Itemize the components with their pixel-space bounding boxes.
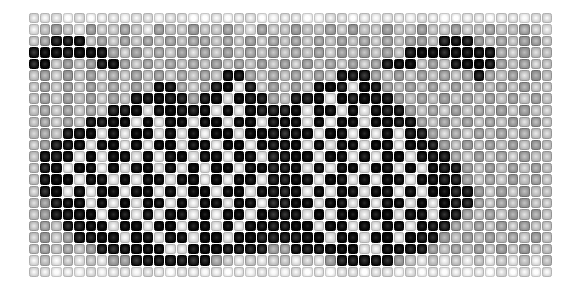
mosaic-tile xyxy=(462,198,472,209)
mosaic-tile xyxy=(51,47,61,58)
mosaic-tile xyxy=(120,47,130,58)
mosaic-cell xyxy=(245,266,256,278)
mosaic-cell xyxy=(108,81,119,93)
mosaic-cell xyxy=(302,209,313,221)
mosaic-cell xyxy=(416,243,427,255)
mosaic-tile xyxy=(120,209,130,220)
mosaic-cell xyxy=(325,209,336,221)
mosaic-cell xyxy=(233,139,244,151)
mosaic-cell xyxy=(233,255,244,267)
mosaic-cell xyxy=(245,151,256,163)
mosaic-tile xyxy=(234,82,244,93)
mosaic-cell xyxy=(142,116,153,128)
mosaic-cell xyxy=(348,58,359,70)
mosaic-tile xyxy=(474,70,484,81)
mosaic-cell xyxy=(62,58,73,70)
mosaic-cell xyxy=(370,116,381,128)
mosaic-cell xyxy=(530,185,541,197)
mosaic-tile xyxy=(519,117,529,128)
mosaic-cell xyxy=(256,139,267,151)
mosaic-cell xyxy=(131,220,142,232)
mosaic-cell xyxy=(279,174,290,186)
mosaic-cell xyxy=(302,35,313,47)
mosaic-cell xyxy=(450,174,461,186)
mosaic-tile xyxy=(120,82,130,93)
mosaic-tile xyxy=(531,244,541,255)
mosaic-tile xyxy=(108,174,118,185)
mosaic-tile xyxy=(348,70,358,81)
mosaic-tile xyxy=(154,82,164,93)
mosaic-cell xyxy=(393,35,404,47)
mosaic-tile xyxy=(86,221,96,232)
mosaic-cell xyxy=(313,70,324,82)
mosaic-cell xyxy=(302,255,313,267)
mosaic-tile xyxy=(348,82,358,93)
mosaic-tile xyxy=(496,13,506,24)
mosaic-tile xyxy=(268,117,278,128)
mosaic-cell xyxy=(405,81,416,93)
mosaic-cell xyxy=(450,47,461,59)
mosaic-cell xyxy=(51,162,62,174)
mosaic-tile xyxy=(325,36,335,47)
mosaic-tile xyxy=(51,128,61,139)
mosaic-tile xyxy=(245,82,255,93)
mosaic-tile xyxy=(371,59,381,70)
mosaic-tile xyxy=(474,82,484,93)
mosaic-cell xyxy=(439,220,450,232)
mosaic-cell xyxy=(485,81,496,93)
mosaic-cell xyxy=(51,81,62,93)
mosaic-cell xyxy=(188,266,199,278)
mosaic-tile xyxy=(348,221,358,232)
mosaic-cell xyxy=(496,255,507,267)
mosaic-tile xyxy=(462,163,472,174)
mosaic-cell xyxy=(142,81,153,93)
mosaic-cell xyxy=(62,139,73,151)
mosaic-tile xyxy=(314,140,324,151)
mosaic-tile xyxy=(371,47,381,58)
mosaic-cell xyxy=(325,70,336,82)
mosaic-tile xyxy=(211,13,221,24)
mosaic-cell xyxy=(165,93,176,105)
mosaic-cell xyxy=(62,93,73,105)
mosaic-tile xyxy=(462,47,472,58)
mosaic-tile xyxy=(302,13,312,24)
mosaic-tile xyxy=(51,70,61,81)
mosaic-cell xyxy=(222,255,233,267)
mosaic-cell xyxy=(211,116,222,128)
mosaic-cell xyxy=(507,162,518,174)
mosaic-tile xyxy=(531,59,541,70)
mosaic-cell xyxy=(154,174,165,186)
mosaic-tile xyxy=(314,47,324,58)
mosaic-tile xyxy=(314,24,324,35)
mosaic-cell xyxy=(165,255,176,267)
mosaic-tile xyxy=(542,70,552,81)
mosaic-cell xyxy=(348,162,359,174)
mosaic-tile xyxy=(485,13,495,24)
mosaic-tile xyxy=(280,82,290,93)
mosaic-cell xyxy=(359,185,370,197)
mosaic-tile xyxy=(348,209,358,220)
mosaic-tile xyxy=(337,59,347,70)
mosaic-tile xyxy=(325,93,335,104)
mosaic-tile xyxy=(325,70,335,81)
mosaic-cell xyxy=(507,47,518,59)
mosaic-cell xyxy=(542,128,553,140)
mosaic-tile xyxy=(348,93,358,104)
mosaic-tile xyxy=(40,244,50,255)
mosaic-cell xyxy=(336,24,347,36)
mosaic-cell xyxy=(325,105,336,117)
mosaic-tile xyxy=(485,244,495,255)
mosaic-tile xyxy=(382,24,392,35)
mosaic-tile xyxy=(542,117,552,128)
mosaic-cell xyxy=(108,185,119,197)
mosaic-tile xyxy=(531,117,541,128)
mosaic-cell xyxy=(530,105,541,117)
mosaic-cell xyxy=(233,185,244,197)
mosaic-cell xyxy=(359,24,370,36)
mosaic-tile xyxy=(508,198,518,209)
mosaic-cell xyxy=(142,151,153,163)
mosaic-tile xyxy=(165,163,175,174)
mosaic-cell xyxy=(74,209,85,221)
mosaic-cell xyxy=(279,162,290,174)
mosaic-tile xyxy=(314,59,324,70)
